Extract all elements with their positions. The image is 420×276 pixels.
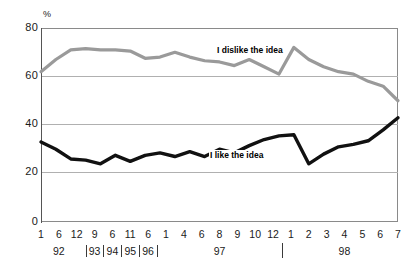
year-separator: [86, 245, 87, 257]
year-separator: [103, 245, 104, 257]
x-tick-year-93: 93: [89, 245, 101, 257]
x-tick-month-9: 6: [199, 228, 205, 240]
x-tick-year-97: 97: [214, 245, 226, 257]
x-tick-month-11: 9: [234, 228, 240, 240]
x-tick-month-4: 6: [109, 228, 115, 240]
x-tick-month-8: 4: [181, 228, 187, 240]
series-label-dislike: I dislike the idea: [216, 45, 284, 55]
x-tick-month-18: 5: [359, 228, 365, 240]
x-tick-month-2: 12: [71, 228, 83, 240]
x-tick-month-12: 10: [249, 228, 261, 240]
x-tick-month-13: 12: [267, 228, 279, 240]
x-tick-month-16: 3: [324, 228, 330, 240]
x-tick-year-96: 96: [142, 245, 154, 257]
x-tick-month-17: 4: [342, 228, 348, 240]
x-tick-month-19: 6: [377, 228, 383, 240]
x-tick-month-20: 7: [395, 228, 401, 240]
x-tick-month-1: 6: [56, 228, 62, 240]
year-separator: [121, 245, 122, 257]
x-tick-month-7: 1: [163, 228, 169, 240]
x-tick-month-14: 1: [288, 228, 294, 240]
x-tick-year-95: 95: [124, 245, 136, 257]
x-tick-month-5: 11: [125, 228, 136, 240]
year-separator: [139, 245, 140, 257]
x-tick-month-15: 2: [306, 228, 312, 240]
x-axis-year-labels: 92939495969798: [41, 245, 398, 259]
year-separator: [157, 245, 158, 257]
x-tick-month-10: 8: [217, 228, 223, 240]
x-tick-year-94: 94: [107, 245, 119, 257]
x-tick-month-6: 6: [145, 228, 151, 240]
x-tick-year-92: 92: [53, 245, 65, 257]
line-series-dislike: [41, 47, 398, 100]
x-tick-month-0: 1: [38, 228, 44, 240]
series-label-like: I like the idea: [209, 150, 264, 160]
year-divider-97-98: [282, 243, 283, 258]
x-tick-month-3: 9: [92, 228, 98, 240]
x-axis-month-labels: 1612961161468910121234567: [41, 228, 398, 242]
chart-container: % 80 60 40 20 0 I dislike the idea I lik…: [0, 0, 420, 276]
x-tick-year-98: 98: [339, 245, 351, 257]
